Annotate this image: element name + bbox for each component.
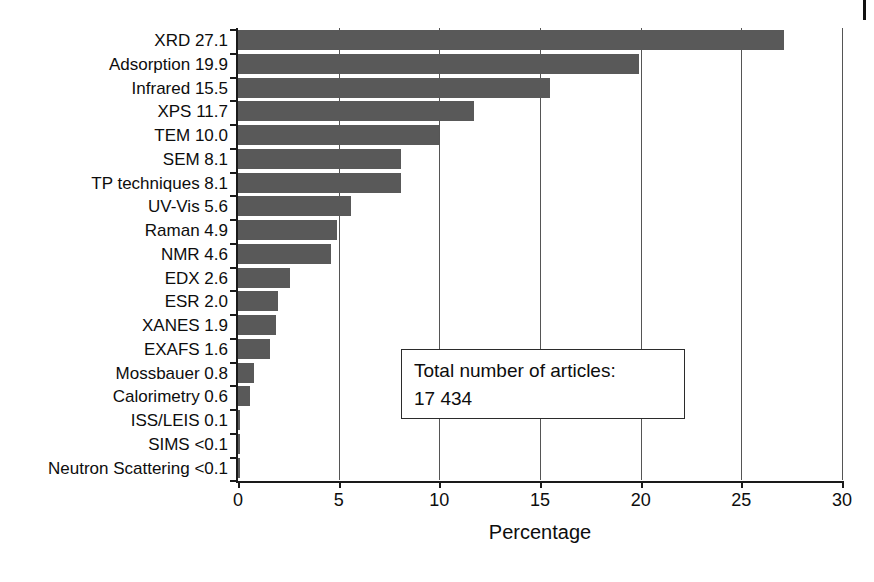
value-tick-label: 30 [812, 490, 872, 511]
bar [238, 54, 639, 74]
value-tick [439, 481, 441, 488]
category-label: EDX 2.6 [165, 269, 228, 288]
value-tick-label: 0 [208, 490, 268, 511]
category-label: Neutron Scattering <0.1 [48, 459, 228, 478]
bar [238, 410, 240, 430]
scan-artifact-mark [863, 0, 866, 20]
category-label: EXAFS 1.6 [144, 340, 228, 359]
category-tick [230, 243, 238, 245]
category-label: Infrared 15.5 [132, 79, 228, 98]
bar [238, 173, 401, 193]
total-articles-box: Total number of articles: 17 434 [401, 349, 685, 419]
value-tick-label: 25 [711, 490, 771, 511]
category-tick [230, 124, 238, 126]
x-axis-title: Percentage [238, 521, 842, 544]
category-label: TP techniques 8.1 [91, 174, 228, 193]
category-tick [230, 195, 238, 197]
category-tick [230, 314, 238, 316]
category-label: ESR 2.0 [165, 292, 228, 311]
category-tick [230, 385, 238, 387]
value-tick [238, 481, 240, 488]
bar [238, 149, 401, 169]
category-tick [230, 219, 238, 221]
bar [238, 315, 276, 335]
bar [238, 244, 331, 264]
category-label: XPS 11.7 [157, 102, 228, 121]
category-tick [230, 362, 238, 364]
category-tick [230, 290, 238, 292]
category-label: Mossbauer 0.8 [116, 364, 228, 383]
bar [238, 101, 474, 121]
category-label: XRD 27.1 [154, 31, 228, 50]
bar [238, 30, 784, 50]
category-tick [230, 29, 238, 31]
value-tick-label: 10 [409, 490, 469, 511]
value-tick [339, 481, 341, 488]
bar [238, 386, 250, 406]
category-tick [230, 409, 238, 411]
bar-chart: XRD 27.1Adsorption 19.9Infrared 15.5XPS … [0, 0, 874, 582]
category-tick [230, 77, 238, 79]
bar [238, 458, 240, 478]
bar [238, 363, 254, 383]
category-label: SIMS <0.1 [148, 435, 228, 454]
category-tick [230, 148, 238, 150]
category-label: Raman 4.9 [145, 221, 228, 240]
value-tick [842, 481, 844, 488]
value-tick [641, 481, 643, 488]
total-articles-value: 17 434 [414, 385, 684, 413]
category-tick [230, 172, 238, 174]
value-tick-label: 15 [510, 490, 570, 511]
gridline-25 [741, 28, 742, 480]
bar [238, 291, 278, 311]
category-label: Calorimetry 0.6 [113, 387, 228, 406]
bar [238, 434, 240, 454]
category-label: TEM 10.0 [154, 126, 228, 145]
bar [238, 196, 351, 216]
category-tick [230, 457, 238, 459]
category-tick [230, 267, 238, 269]
category-label: UV-Vis 5.6 [148, 197, 228, 216]
category-tick [230, 480, 238, 482]
bar [238, 220, 337, 240]
category-label: XANES 1.9 [142, 316, 228, 335]
gridline-30 [842, 28, 843, 480]
category-tick [230, 338, 238, 340]
value-tick [741, 481, 743, 488]
bar [238, 78, 550, 98]
value-tick [540, 481, 542, 488]
category-tick [230, 433, 238, 435]
category-label: SEM 8.1 [163, 150, 228, 169]
category-tick [230, 53, 238, 55]
bar [238, 125, 439, 145]
value-tick-label: 20 [611, 490, 671, 511]
category-label: ISS/LEIS 0.1 [131, 411, 228, 430]
category-label: Adsorption 19.9 [109, 55, 228, 74]
value-tick-label: 5 [309, 490, 369, 511]
total-articles-label: Total number of articles: [414, 357, 684, 385]
category-label: NMR 4.6 [161, 245, 228, 264]
bar [238, 268, 290, 288]
category-tick [230, 100, 238, 102]
bar [238, 339, 270, 359]
